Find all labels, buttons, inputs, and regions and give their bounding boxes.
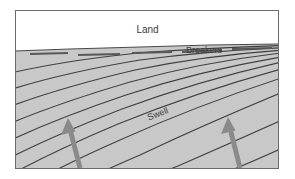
land-label: Land xyxy=(0,24,295,35)
diagram-canvas: Land Breakers Swell xyxy=(0,0,295,179)
breaker-segment xyxy=(132,52,172,53)
breaker-segment xyxy=(30,53,68,54)
breakers-label: Breakers xyxy=(186,45,222,55)
breaker-segment xyxy=(232,48,272,49)
breaker-segment xyxy=(78,54,120,55)
